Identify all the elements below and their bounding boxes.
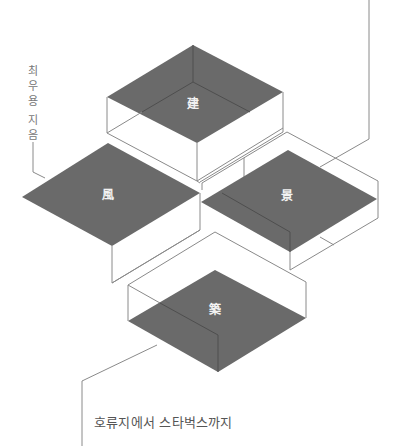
- isometric-diagram: 建 風 景 築: [0, 0, 402, 446]
- caption-title: 호류지에서 스타벅스까지: [94, 412, 233, 431]
- glyph-pung: 風: [102, 188, 114, 202]
- block-pung: 風: [22, 143, 200, 283]
- connector-edge: [197, 181, 200, 183]
- author-label: 최 우 용 지 음: [26, 64, 40, 143]
- author-char: 최: [26, 64, 40, 79]
- block-chuk: 築: [128, 232, 306, 372]
- author-char: 용: [26, 94, 40, 109]
- author-char: 우: [26, 79, 40, 94]
- glyph-gyeong: 景: [281, 189, 293, 203]
- block-gyeong: 景: [201, 132, 378, 270]
- glyph-chuk: 築: [208, 302, 222, 317]
- author-char: 지: [26, 113, 40, 128]
- leader-line-author: [33, 142, 45, 178]
- leader-line-top-right: [320, 0, 369, 167]
- author-char: 음: [26, 128, 40, 143]
- glyph-geon: 建: [186, 96, 200, 111]
